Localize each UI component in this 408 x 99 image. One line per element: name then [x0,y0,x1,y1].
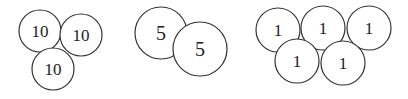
coin-10: 10 [19,10,61,52]
svg-text:10: 10 [45,60,62,79]
group-fives: 5 5 [135,7,227,76]
svg-text:10: 10 [32,22,49,41]
group-ones: 1 1 1 1 1 [256,6,391,85]
coin-5: 5 [173,22,227,76]
svg-text:1: 1 [339,54,348,73]
coin-10: 10 [60,14,102,56]
coin-1: 1 [321,41,365,85]
svg-text:5: 5 [156,22,166,44]
svg-text:1: 1 [274,21,283,40]
svg-text:5: 5 [195,38,205,60]
svg-text:1: 1 [319,19,328,38]
coin-diagram: 10 10 10 5 5 1 1 1 1 1 [0,0,408,99]
group-tens: 10 10 10 [19,10,102,90]
svg-text:1: 1 [293,52,302,71]
svg-text:10: 10 [73,26,90,45]
svg-text:1: 1 [365,19,374,38]
coin-10: 10 [32,48,74,90]
coin-1: 1 [275,39,319,83]
